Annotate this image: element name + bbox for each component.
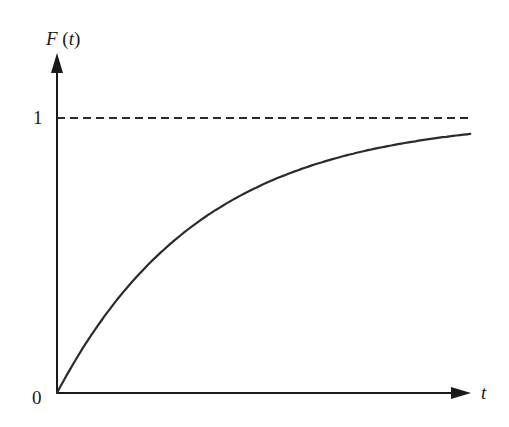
y-axis-arrow-icon (51, 53, 63, 73)
x-axis-arrow-icon (451, 387, 471, 399)
x-axis (57, 387, 471, 399)
y-axis-label: F (t) (46, 29, 80, 48)
cdf-curve (57, 134, 470, 393)
y-tick-label-one: 1 (33, 108, 43, 127)
cdf-chart (0, 0, 509, 427)
origin-label: 0 (32, 388, 42, 407)
y-axis (51, 53, 63, 393)
x-axis-label: t (481, 383, 486, 402)
y-axis-label-open: ( (58, 28, 69, 49)
y-axis-label-close: ) (74, 28, 80, 49)
y-axis-label-f: F (46, 28, 58, 49)
